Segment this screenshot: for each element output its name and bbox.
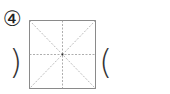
opening-parenthesis: ( xyxy=(99,45,112,79)
writing-grid-box[interactable] xyxy=(29,20,96,89)
question-number: ④ xyxy=(3,8,25,30)
closing-parenthesis: ) xyxy=(9,45,22,79)
grid-guides-icon xyxy=(29,20,96,89)
